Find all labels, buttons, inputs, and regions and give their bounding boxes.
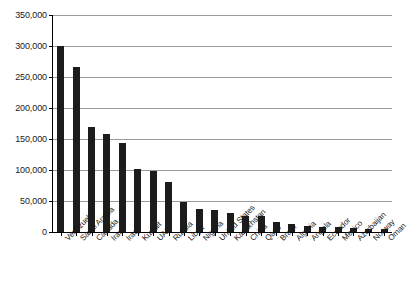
y-axis-tick-label: 350,000 — [15, 11, 47, 20]
y-axis-tick-label: 250,000 — [15, 73, 47, 82]
x-axis-tick-mark — [76, 233, 77, 236]
bar — [134, 169, 141, 232]
x-axis-tick-mark — [246, 233, 247, 236]
x-axis-tick-mark — [292, 233, 293, 236]
x-axis-tick-mark — [338, 233, 339, 236]
y-axis-tick-label: 200,000 — [15, 104, 47, 113]
y-axis-tick-mark — [49, 201, 53, 202]
y-axis-tick-mark — [49, 232, 53, 233]
y-axis-tick-label: 50,000 — [20, 197, 47, 206]
y-axis-tick-label: 300,000 — [15, 42, 47, 51]
bar — [119, 143, 126, 232]
plot-area — [53, 15, 392, 232]
x-axis-tick-mark — [138, 233, 139, 236]
x-axis-tick-mark — [153, 233, 154, 236]
y-axis-tick-mark — [49, 46, 53, 47]
x-axis-tick-mark — [184, 233, 185, 236]
x-axis-tick-mark — [169, 233, 170, 236]
y-axis-tick-label: 0 — [42, 228, 47, 237]
y-axis-tick-label: 150,000 — [15, 135, 47, 144]
y-axis-tick-label: 100,000 — [15, 166, 47, 175]
y-axis-tick-mark — [49, 77, 53, 78]
bar — [57, 46, 64, 232]
y-axis-tick-label-group: 350,000300,000250,000200,000150,000100,0… — [0, 0, 50, 289]
x-axis-tick-mark — [323, 233, 324, 236]
x-axis-tick-mark — [369, 233, 370, 236]
x-axis-tick-mark — [215, 233, 216, 236]
y-axis-tick-mark — [49, 170, 53, 171]
x-axis-tick-mark — [107, 233, 108, 236]
bar — [73, 67, 80, 232]
x-axis-tick-mark — [92, 233, 93, 236]
y-axis-tick-mark — [49, 108, 53, 109]
y-axis-tick-mark — [49, 15, 53, 16]
bar-series — [53, 15, 392, 232]
x-axis-tick-mark — [261, 233, 262, 236]
x-axis-tick-label-group: VenezuelaSaudi ArabiaCanadaIranIraqKuwai… — [53, 233, 398, 289]
x-axis-tick-mark — [61, 233, 62, 236]
y-axis-tick-mark — [49, 139, 53, 140]
